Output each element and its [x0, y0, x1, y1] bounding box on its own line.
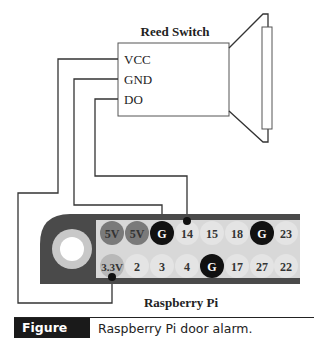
pin-label: 4 [184, 260, 190, 274]
mounting-hole-inner [60, 237, 84, 261]
door-alarm-diagram: Reed Switch VCC GND DO 5V 5V G 14 15 [0, 0, 314, 344]
reed-switch-title: Reed Switch [141, 24, 211, 39]
pin-label-do: DO [124, 92, 143, 107]
pin-label: 2 [134, 260, 140, 274]
pin-label: 18 [231, 227, 243, 241]
reed-switch-module: Reed Switch VCC GND DO [118, 14, 272, 142]
pin-label-vcc: VCC [124, 52, 151, 67]
pin-label: 3 [159, 260, 165, 274]
pin-label: 5V [105, 227, 120, 241]
magnet-bar [262, 27, 272, 129]
raspberry-pi-header: 5V 5V G 14 15 18 G 23 3.3V 2 3 4 G 17 27… [40, 214, 300, 284]
connection-dot-3v3 [108, 273, 116, 281]
connection-dot-gpio14 [183, 217, 191, 225]
pin-label: 23 [280, 227, 292, 241]
pin-label: G [207, 260, 216, 274]
pin-label: 3.3V [101, 261, 123, 273]
wire-do-to-gpio14 [95, 99, 187, 220]
figure-number: Figure 5-5 [14, 318, 90, 338]
pin-label: G [157, 227, 166, 241]
figure-caption: Figure 5-5 Raspberry Pi door alarm. [14, 318, 314, 338]
pin-label: 17 [231, 260, 243, 274]
pin-label: 15 [206, 227, 218, 241]
pin-label: 27 [256, 260, 268, 274]
pin-label: 22 [280, 260, 292, 274]
figure-text: Raspberry Pi door alarm. [98, 321, 253, 336]
pin-label: 5V [130, 227, 145, 241]
pin-label: G [257, 227, 266, 241]
raspberry-pi-title: Raspberry Pi [144, 295, 218, 310]
pin-label: 14 [181, 227, 193, 241]
pin-label-gnd: GND [124, 72, 152, 87]
